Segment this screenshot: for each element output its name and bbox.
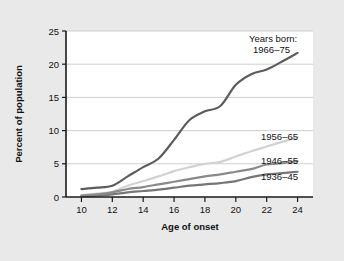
y-axis-title: Percent of population <box>13 65 24 163</box>
x-tick-label: 10 <box>76 204 87 215</box>
y-tick-label: 25 <box>48 26 59 37</box>
line-chart: 0510152025 1012141618202224 Age of onset… <box>0 0 344 261</box>
x-tick-label: 16 <box>169 204 180 215</box>
x-tick-label: 14 <box>138 204 149 215</box>
series-label-1956–65: 1956–65 <box>261 131 298 142</box>
x-tick-label: 18 <box>200 204 211 215</box>
series-label-1936–45: 1936–45 <box>261 171 298 182</box>
y-tick-label: 5 <box>54 158 59 169</box>
y-tick-label: 0 <box>54 192 59 203</box>
series-label-1946–55: 1946–55 <box>261 155 298 166</box>
x-tick-label: 20 <box>231 204 242 215</box>
x-tick-label: 24 <box>292 204 303 215</box>
series-label-1966–75: 1966–75 <box>253 44 290 55</box>
x-axis-title: Age of onset <box>161 221 219 232</box>
y-tick-label: 20 <box>48 59 59 70</box>
y-tick-label: 15 <box>48 92 59 103</box>
x-tick-label: 12 <box>107 204 118 215</box>
figure-container: 0510152025 1012141618202224 Age of onset… <box>0 0 344 261</box>
legend-heading: Years born: <box>249 33 297 44</box>
x-tick-label: 22 <box>261 204 272 215</box>
y-tick-label: 10 <box>48 125 59 136</box>
